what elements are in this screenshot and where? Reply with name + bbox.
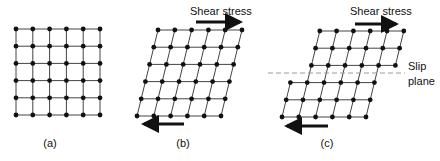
lattice-bond	[213, 64, 217, 81]
panel-a-lattice	[14, 27, 103, 118]
lattice-atom	[64, 113, 69, 118]
lattice-bond	[225, 82, 229, 99]
lattice-atom	[135, 114, 140, 119]
shear-stress-label-c: Shear stress	[350, 5, 412, 17]
lattice-bond	[366, 31, 370, 48]
lattice-atom	[368, 97, 373, 102]
lattice-atom	[401, 29, 406, 34]
lattice-bond	[154, 99, 158, 116]
lattice-bond	[150, 47, 154, 64]
lattice-atom	[376, 63, 381, 68]
lattice-bond	[366, 100, 370, 117]
lattice-bond	[187, 99, 191, 116]
slip-plane-label-line2: plane	[408, 75, 435, 87]
lattice-atom	[151, 114, 156, 119]
lattice-bond	[187, 30, 191, 47]
lattice-atom	[301, 97, 306, 102]
lattice-atom	[47, 61, 52, 66]
lattice-bond	[234, 47, 238, 64]
lattice-atom	[322, 80, 327, 85]
lattice-bond	[299, 100, 303, 117]
lattice-atom	[181, 62, 186, 67]
lattice-atom	[47, 113, 52, 118]
lattice-bond	[200, 47, 204, 64]
lattice-atom	[380, 46, 385, 51]
lattice-atom	[347, 46, 352, 51]
lattice-atom	[368, 29, 373, 34]
lattice-atom	[47, 78, 52, 83]
lattice-atom	[98, 95, 103, 100]
lattice-bond	[349, 31, 353, 48]
lattice-atom	[64, 44, 69, 49]
lattice-atom	[98, 78, 103, 83]
lattice-atom	[185, 45, 190, 50]
lattice-atom	[317, 29, 322, 34]
lattice-atom	[30, 78, 35, 83]
lattice-atom	[280, 115, 285, 120]
lattice-atom	[172, 28, 177, 33]
lattice-atom	[296, 115, 301, 120]
lattice-bond	[229, 64, 233, 81]
lattice-atom	[317, 97, 322, 102]
lattice-bond	[141, 82, 145, 99]
lattice-atom	[30, 27, 35, 32]
lattice-atom	[338, 80, 343, 85]
lattice-atom	[160, 79, 165, 84]
shear-stress-label-b: Shear stress	[190, 5, 252, 17]
slip-plane-label-line1: Slip	[408, 60, 426, 72]
lattice-atom	[81, 113, 86, 118]
lattice-atom	[309, 63, 314, 68]
lattice-atom	[81, 27, 86, 32]
lattice-bond	[345, 48, 349, 65]
lattice-atom	[210, 79, 215, 84]
lattice-atom	[202, 114, 207, 119]
lattice-atom	[47, 95, 52, 100]
caption-b: (b)	[176, 137, 189, 149]
lattice-atom	[172, 96, 177, 101]
lattice-bond	[320, 83, 324, 100]
lattice-atom	[30, 113, 35, 118]
lattice-atom	[202, 45, 207, 50]
lattice-atom	[372, 80, 377, 85]
lattice-atom	[284, 97, 289, 102]
lattice-atom	[30, 44, 35, 49]
lattice-atom	[168, 45, 173, 50]
lattice-bond	[349, 100, 353, 117]
lattice-atom	[326, 63, 331, 68]
lattice-atom	[305, 80, 310, 85]
lattice-atom	[81, 78, 86, 83]
lattice-atom	[14, 27, 19, 32]
lattice-atom	[81, 61, 86, 66]
lattice-atom	[177, 79, 182, 84]
lattice-bond	[353, 83, 357, 100]
lattice-bond	[282, 100, 286, 117]
lattice-bond	[183, 47, 187, 64]
lattice-bond	[196, 64, 200, 81]
lattice-bond	[307, 65, 311, 82]
lattice-atom	[14, 78, 19, 83]
lattice-bond	[162, 64, 166, 81]
caption-c: (c)	[321, 137, 334, 149]
lattice-atom	[193, 79, 198, 84]
lattice-bond	[395, 48, 399, 65]
lattice-atom	[30, 61, 35, 66]
lattice-bond	[137, 99, 141, 116]
lattice-atom	[139, 96, 144, 101]
lattice-bond	[328, 48, 332, 65]
lattice-bond	[341, 65, 345, 82]
lattice-atom	[156, 28, 161, 33]
lattice-bond	[316, 100, 320, 117]
lattice-bond	[158, 82, 162, 99]
lattice-atom	[343, 63, 348, 68]
lattice-bond	[311, 48, 315, 65]
lattice-atom	[151, 45, 156, 50]
lattice-atom	[231, 62, 236, 67]
lattice-bond	[192, 82, 196, 99]
lattice-atom	[14, 113, 19, 118]
lattice-atom	[64, 27, 69, 32]
lattice-atom	[334, 29, 339, 34]
lattice-atom	[235, 45, 240, 50]
lattice-atom	[98, 113, 103, 118]
lattice-atom	[355, 80, 360, 85]
lattice-atom	[14, 95, 19, 100]
